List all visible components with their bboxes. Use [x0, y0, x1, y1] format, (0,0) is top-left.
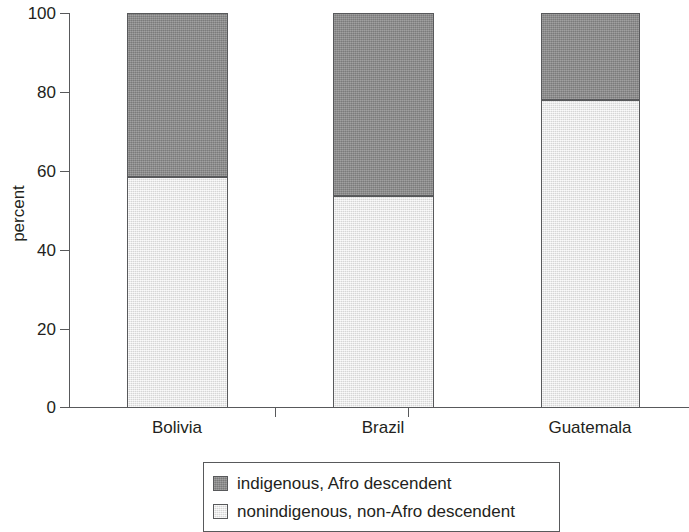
y-tick-100 — [60, 13, 69, 14]
y-axis-line — [69, 13, 70, 408]
y-tick-80 — [60, 92, 69, 93]
y-tick-60 — [60, 171, 69, 172]
chart-legend: indigenous, Afro descendent nonindigenou… — [203, 462, 560, 532]
y-tick-label-40: 40 — [10, 242, 56, 259]
y-tick-0 — [60, 407, 69, 408]
legend-item-indigenous: indigenous, Afro descendent — [213, 469, 559, 497]
legend-swatch-indigenous-icon — [213, 476, 228, 491]
y-tick-label-60: 60 — [10, 163, 56, 180]
bar-bolivia-segment-nonindigenous — [127, 177, 228, 408]
bar-brazil-segment-nonindigenous — [333, 196, 434, 408]
y-tick-label-100: 100 — [10, 5, 56, 22]
x-tick-separator-1 — [275, 407, 276, 417]
bar-brazil-segment-indigenous — [333, 13, 434, 196]
bar-bolivia-segment-indigenous — [127, 13, 228, 177]
bar-guatemala — [541, 13, 640, 408]
bar-brazil — [333, 13, 434, 408]
x-tick-separator-2 — [408, 407, 409, 417]
y-tick-label-20: 20 — [10, 321, 56, 338]
x-label-brazil: Brazil — [323, 418, 443, 438]
bar-bolivia — [127, 13, 228, 408]
y-tick-20 — [60, 329, 69, 330]
x-label-guatemala: Guatemala — [530, 418, 650, 438]
y-tick-label-80: 80 — [10, 84, 56, 101]
y-tick-label-0: 0 — [10, 399, 56, 416]
bar-guatemala-segment-nonindigenous — [541, 100, 640, 408]
legend-swatch-nonindigenous-icon — [213, 504, 228, 519]
bar-guatemala-segment-indigenous — [541, 13, 640, 100]
legend-label-nonindigenous: nonindigenous, non-Afro descendent — [237, 502, 515, 521]
legend-label-indigenous: indigenous, Afro descendent — [237, 474, 452, 493]
x-label-bolivia: Bolivia — [117, 418, 237, 438]
legend-item-nonindigenous: nonindigenous, non-Afro descendent — [213, 497, 559, 525]
y-tick-40 — [60, 250, 69, 251]
